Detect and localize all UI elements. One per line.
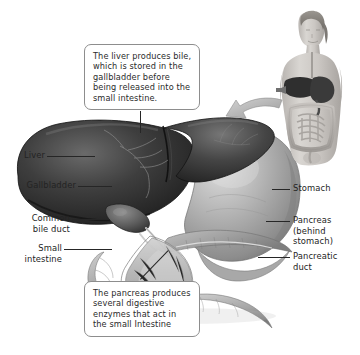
label-gallbladder: Gallbladder — [0, 180, 76, 191]
label-stomach: Stomach — [293, 183, 359, 194]
label-common-bile-duct: Common bile duct — [0, 213, 70, 234]
label-small-intestine: Small intestine — [0, 243, 62, 264]
leader-line-common-bile-duct — [72, 219, 110, 220]
leader-line-pancreas — [266, 221, 290, 222]
human-torso-icon — [276, 8, 348, 170]
leader-line-pancreatic-duct — [258, 257, 290, 258]
label-pancreas: Pancreas (behind stomach) — [293, 215, 359, 247]
leader-line-small-intestine — [64, 249, 112, 250]
label-liver: Liver — [0, 150, 45, 161]
leader-line-liver-callout — [140, 111, 141, 133]
callout-liver: The liver produces bile, which is stored… — [84, 44, 200, 110]
label-pancreatic-duct: Pancreatic duct — [293, 251, 359, 272]
callout-pancreas: The pancreas produces several digestive … — [84, 281, 200, 337]
leader-line-gallbladder — [78, 186, 112, 187]
illustration-canvas: Liver Gallbladder Common bile duct Small… — [0, 0, 360, 355]
leader-line-stomach — [272, 189, 290, 190]
leader-line-liver — [47, 156, 95, 157]
